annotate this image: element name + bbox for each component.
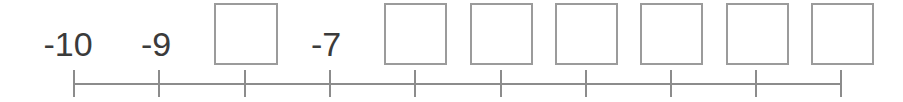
answer-box-3[interactable] bbox=[555, 3, 618, 65]
answer-box-6[interactable] bbox=[811, 3, 874, 65]
axis-tick-0 bbox=[73, 70, 75, 97]
axis-tick-8 bbox=[755, 70, 757, 97]
axis-tick-9 bbox=[840, 70, 842, 97]
axis-tick-2 bbox=[244, 70, 246, 97]
answer-box-4[interactable] bbox=[640, 3, 703, 65]
axis-tick-3 bbox=[329, 70, 331, 97]
answer-box-0[interactable] bbox=[214, 3, 278, 65]
number-line-worksheet: -10-9-7 bbox=[0, 0, 903, 102]
number-line-axis bbox=[74, 83, 841, 85]
axis-tick-1 bbox=[158, 70, 160, 97]
tick-label--9: -9 bbox=[96, 27, 216, 61]
axis-tick-5 bbox=[500, 70, 502, 97]
answer-box-5[interactable] bbox=[726, 3, 789, 65]
answer-box-2[interactable] bbox=[470, 3, 533, 65]
answer-box-1[interactable] bbox=[384, 3, 447, 65]
axis-tick-4 bbox=[414, 70, 416, 97]
tick-label--7: -7 bbox=[266, 27, 386, 61]
axis-tick-7 bbox=[670, 70, 672, 97]
axis-tick-6 bbox=[585, 70, 587, 97]
